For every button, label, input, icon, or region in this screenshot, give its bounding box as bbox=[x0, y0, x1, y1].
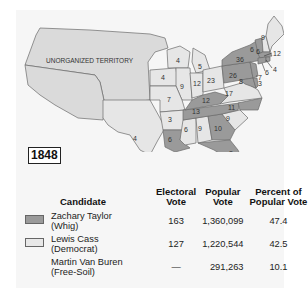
label-al: 9 bbox=[198, 125, 202, 132]
state-me bbox=[266, 16, 284, 52]
percent-vote: 47.4 bbox=[247, 209, 298, 232]
label-ga: 10 bbox=[214, 125, 222, 132]
label-de: 3 bbox=[258, 80, 262, 87]
label-tn: 13 bbox=[192, 108, 200, 115]
label-ky: 12 bbox=[202, 97, 210, 104]
label-sc: 9 bbox=[226, 115, 230, 122]
table-header-row: Candidate ElectoralVote PopularVote Perc… bbox=[22, 187, 297, 209]
candidate-name: Lewis Cass(Democrat) bbox=[48, 232, 153, 255]
label-tx: 4 bbox=[133, 135, 137, 142]
label-wi: 4 bbox=[176, 57, 180, 64]
label-in: 12 bbox=[193, 80, 201, 87]
candidate-name: Zachary Taylor(Whig) bbox=[48, 209, 153, 232]
label-ri: 4 bbox=[273, 66, 277, 73]
label-la: 6 bbox=[168, 136, 172, 143]
state-ms bbox=[180, 118, 196, 145]
electoral-vote: 127 bbox=[153, 232, 199, 255]
label-oh: 23 bbox=[207, 77, 215, 84]
results-table: Candidate ElectoralVote PopularVote Perc… bbox=[22, 187, 297, 278]
header-electoral-vote: ElectoralVote bbox=[153, 187, 199, 209]
state-tx bbox=[103, 100, 165, 152]
label-mi: 5 bbox=[198, 63, 202, 70]
label-ct: 6 bbox=[265, 69, 269, 76]
label-ms: 6 bbox=[184, 126, 188, 133]
percent-vote: 10.1 bbox=[247, 255, 298, 278]
state-ar bbox=[160, 110, 185, 130]
label-nc: 11 bbox=[228, 104, 235, 111]
label-mo: 7 bbox=[167, 96, 171, 103]
popular-vote: 1,360,099 bbox=[199, 209, 246, 232]
label-vt: 6 bbox=[250, 46, 254, 53]
electoral-vote: 163 bbox=[153, 209, 199, 232]
popular-vote: 1,220,544 bbox=[199, 232, 246, 255]
popular-vote: 291,263 bbox=[199, 255, 246, 278]
header-popular-vote: PopularVote bbox=[199, 187, 246, 209]
table-row: Lewis Cass(Democrat) 127 1,220,544 42.5 bbox=[22, 232, 297, 255]
year-label: 1848 bbox=[28, 147, 61, 164]
whig-swatch bbox=[25, 215, 44, 224]
candidate-name: Martin Van Buren(Free-Soil) bbox=[48, 255, 153, 278]
label-pa: 26 bbox=[229, 72, 237, 79]
table-row: Martin Van Buren(Free-Soil) — 291,263 10… bbox=[22, 255, 297, 278]
label-me: 9 bbox=[261, 34, 265, 41]
electoral-vote: — bbox=[153, 255, 199, 278]
territory-label: UNORGANIZED TERRITORY bbox=[46, 57, 134, 64]
state-ct bbox=[258, 57, 266, 64]
label-nh: 6 bbox=[256, 48, 260, 55]
label-va: 17 bbox=[225, 90, 233, 97]
democrat-swatch bbox=[25, 238, 44, 247]
header-percent-popular-vote: Percent ofPopular Vote bbox=[247, 187, 298, 209]
label-md: 8 bbox=[239, 78, 243, 85]
label-ma: 12 bbox=[273, 50, 281, 57]
label-ny: 36 bbox=[236, 56, 244, 63]
label-ia: 4 bbox=[161, 74, 165, 81]
label-fl: 3 bbox=[229, 150, 233, 152]
state-fl bbox=[198, 140, 248, 152]
label-ar: 3 bbox=[168, 116, 172, 123]
table-row: Zachary Taylor(Whig) 163 1,360,099 47.4 bbox=[22, 209, 297, 232]
us-election-map-1848: UNORGANIZED TERRITORY 4 4 4 5 9 12 23 7 … bbox=[16, 12, 284, 152]
label-il: 9 bbox=[180, 83, 184, 90]
percent-vote: 42.5 bbox=[247, 232, 298, 255]
header-candidate: Candidate bbox=[48, 187, 153, 209]
